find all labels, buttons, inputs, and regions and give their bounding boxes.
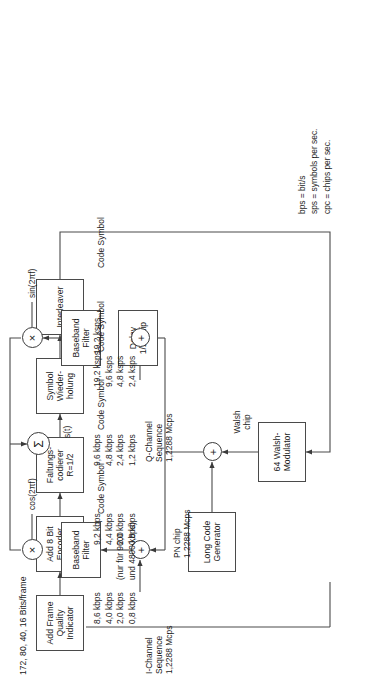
rates-input: 8,6 kbps 4,0 kbps 2,0 kbps 0,8 kbps xyxy=(92,592,138,624)
rate-value: 4,0 kbps xyxy=(104,592,116,624)
rates-after-encoder-tail: 9,6 kbps 4,8 kbps 2,4 kbps 1,2 kbps xyxy=(92,434,138,466)
rates-after-convolutional-coder: 19,2 ksps 9,6 ksps 4,8 ksps 2,4 ksps xyxy=(92,351,138,387)
i-channel-sequence-label-line2: Sequence xyxy=(154,636,164,674)
rate-value: 2,0 kbps xyxy=(115,592,127,624)
code-symbol-label-4: Code Symbol xyxy=(96,217,106,268)
q-channel-sequence-rate: 1,2288 Mcps xyxy=(164,413,174,462)
rates-after-frame-quality-indicator: 9,2 kbps 4,4 kbps 2,0 kbps 0,8 kbps xyxy=(92,513,138,545)
rate-value: 9,2 kbps xyxy=(92,513,104,545)
rate-value: 0,8 kbps xyxy=(127,513,139,545)
rate-value: 2,0 kbps xyxy=(115,513,127,545)
legend-item: bps = bit/s xyxy=(296,129,308,214)
header-note: 172, 80, 40, 16 Bits/frame xyxy=(18,577,28,675)
walsh-chip-label-line2: chip xyxy=(242,400,252,444)
rate-value: 2,4 ksps xyxy=(127,351,139,387)
code-symbol-label-1: Code Symbol xyxy=(96,463,106,514)
rate-value: 9,6 kbps xyxy=(92,434,104,466)
i-channel-sequence-rate: 1,2288 Mcps xyxy=(164,625,174,674)
rate-value: 1,2 kbps xyxy=(127,434,139,466)
rate-value: 2,4 kbps xyxy=(115,434,127,466)
output-signal-label: s(t) xyxy=(62,426,72,438)
rate-value: 9,6 ksps xyxy=(104,351,116,387)
legend-item: sps = symbols per sec. xyxy=(308,129,320,214)
rate-value: 19,2 ksps xyxy=(92,351,104,387)
pn-chip-label-line1: PN chip xyxy=(172,528,182,558)
legend: bps = bit/s sps = symbols per sec. cpc =… xyxy=(296,129,333,214)
sin-carrier-label: sin(2πf) xyxy=(27,269,37,298)
cos-carrier-label: cos(2πf) xyxy=(27,478,37,510)
rate-value: 4,8 kbps xyxy=(104,434,116,466)
pn-chip-rate-label: 1,2288 Mcps xyxy=(182,509,192,558)
rate-value: 4,8 ksps xyxy=(115,351,127,387)
rate-value: 4,4 kbps xyxy=(104,513,116,545)
rate-value: 0,8 kbps xyxy=(127,592,139,624)
diagram-canvas: Add Frame Quality Indicator Add 8 Bit En… xyxy=(0,0,380,700)
walsh-chip-label-line1: Walsh xyxy=(232,400,242,444)
label-layer: 172, 80, 40, 16 Bits/frame s(t) Code Sym… xyxy=(0,0,380,700)
q-channel-sequence-label-line1: Q-Channel xyxy=(144,421,154,462)
legend-item: cpc = chips per sec. xyxy=(321,129,333,214)
i-channel-sequence-label-line1: I-Channel xyxy=(144,637,154,674)
rate-value: 8,6 kbps xyxy=(92,592,104,624)
rate-after-symbol-repetition: 19,2 ksps xyxy=(92,318,102,354)
q-channel-sequence-label-line2: Sequence xyxy=(154,424,164,462)
